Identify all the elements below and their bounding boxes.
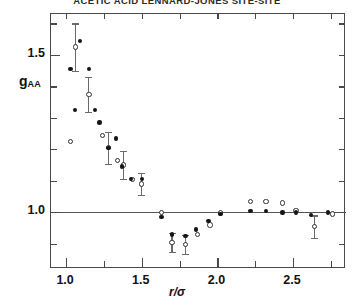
y-tick-1.3: [51, 118, 57, 119]
plot-area: [50, 13, 345, 268]
x-tick-label-1.0: 1.0: [45, 273, 85, 287]
data-point-filled-12: [170, 232, 174, 236]
data-point-open-5: [115, 158, 120, 163]
y-tick-1.1: [51, 181, 57, 182]
data-point-filled-5: [97, 120, 101, 124]
error-bar-cap-top-0-4: [105, 132, 112, 133]
figure-container: ACETIC ACID LENNARD-JONES SITE-SITE gAA …: [0, 0, 354, 308]
x-tick-top-1.25: [104, 14, 105, 19]
data-point-filled-18: [264, 209, 268, 213]
data-point-filled-3: [87, 67, 91, 71]
data-point-open-19: [312, 224, 317, 229]
y-tick-1.5: [51, 55, 60, 56]
x-tick-label-2.5: 2.5: [272, 273, 312, 287]
y-axis-title-base: g: [19, 73, 28, 89]
data-point-filled-1: [78, 39, 82, 43]
y-tick-right-1.2: [339, 149, 344, 150]
error-bar-cap-top-0-2: [85, 77, 92, 78]
error-bar-cap-top-0-1: [72, 23, 79, 24]
y-tick-right-1: [339, 212, 344, 213]
data-point-filled-16: [218, 212, 222, 216]
y-tick-right-1.6: [339, 23, 344, 24]
error-bar-cap-bottom-0-10: [169, 252, 176, 253]
y-tick-right-1.5: [339, 55, 344, 56]
error-bar-cap-bottom-0-19: [311, 238, 318, 239]
data-point-open-2: [86, 92, 91, 97]
x-tick-2.25: [255, 261, 256, 267]
y-tick-right-1.1: [339, 181, 344, 182]
y-tick-label-1.5: 1.5: [0, 46, 45, 60]
x-tick-top-1.5: [142, 14, 143, 19]
x-axis-title: r/σ: [0, 285, 354, 299]
error-bar-cap-top-0-6: [120, 151, 127, 152]
data-point-open-8: [139, 181, 144, 186]
x-axis-title-text: r/σ: [169, 285, 185, 299]
y-tick-1.6: [51, 23, 57, 24]
error-bar-cap-bottom-0-6: [120, 179, 127, 180]
x-tick-1: [66, 258, 67, 267]
y-tick-right-1.3: [339, 118, 344, 119]
data-point-filled-0: [68, 67, 72, 71]
y-axis-title-sub: AA: [28, 79, 41, 89]
x-tick-1.5: [142, 258, 143, 267]
error-bar-cap-bottom-0-2: [85, 112, 92, 113]
data-point-filled-15: [206, 219, 210, 223]
x-tick-1.25: [104, 261, 105, 267]
data-point-open-0: [68, 139, 73, 144]
data-point-filled-7: [114, 136, 118, 140]
y-tick-1.2: [51, 149, 57, 150]
data-point-open-1: [73, 44, 78, 49]
data-point-open-20: [330, 211, 335, 216]
x-tick-top-1: [66, 14, 67, 19]
data-point-open-13: [207, 222, 212, 227]
data-point-filled-2: [73, 108, 77, 112]
data-point-filled-6: [106, 146, 110, 150]
data-point-open-12: [195, 232, 200, 237]
data-point-filled-17: [248, 209, 252, 213]
y-tick-0.9: [51, 244, 57, 245]
data-point-filled-11: [159, 215, 163, 219]
x-tick-top-2.5: [293, 14, 294, 19]
data-point-open-3: [100, 133, 105, 138]
y-tick-right-1.4: [339, 86, 344, 87]
data-point-filled-20: [294, 210, 298, 214]
data-point-filled-13: [183, 234, 187, 238]
error-bar-cap-top-0-8: [138, 173, 145, 174]
y-tick-1: [51, 212, 60, 213]
data-point-open-16: [263, 199, 268, 204]
x-tick-2: [217, 258, 218, 267]
error-bar-cap-bottom-0-8: [138, 195, 145, 196]
error-bar-cap-bottom-0-4: [105, 164, 112, 165]
error-bar-cap-bottom-0-11: [182, 254, 189, 255]
data-point-open-11: [183, 242, 188, 247]
x-tick-top-2.75: [331, 14, 332, 19]
data-point-filled-22: [326, 210, 330, 214]
reference-line-g1: [51, 212, 346, 213]
x-tick-top-2.25: [255, 14, 256, 19]
x-tick-label-2.0: 2.0: [196, 273, 236, 287]
chart-title: ACETIC ACID LENNARD-JONES SITE-SITE: [0, 0, 354, 5]
y-tick-label-1.0: 1.0: [0, 203, 45, 217]
data-point-open-10: [169, 240, 174, 245]
data-point-open-15: [248, 199, 253, 204]
y-axis-title: gAA: [19, 73, 41, 89]
y-tick-right-0.9: [339, 244, 344, 245]
error-bar-cap-bottom-0-1: [72, 71, 79, 72]
data-point-open-17: [280, 200, 285, 205]
x-tick-1.75: [180, 261, 181, 267]
x-tick-2.5: [293, 258, 294, 267]
x-tick-top-2: [217, 14, 218, 19]
y-tick-1.4: [51, 86, 57, 87]
x-tick-label-1.5: 1.5: [121, 273, 161, 287]
x-tick-top-1.75: [180, 14, 181, 19]
x-tick-2.75: [331, 261, 332, 267]
data-point-filled-19: [280, 210, 284, 214]
data-point-filled-4: [93, 108, 97, 112]
